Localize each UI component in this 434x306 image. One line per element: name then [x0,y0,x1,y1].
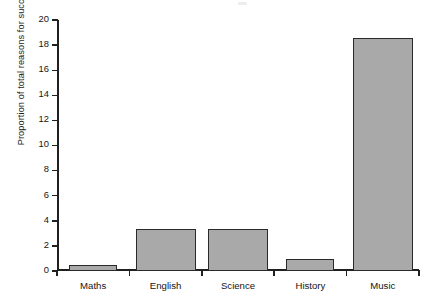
bar-chart-figure: Proportion of total reasons for success … [0,0,434,306]
x-axis-label-science: Science [221,280,255,291]
y-tick-18: 18 [52,44,58,45]
y-tick-label: 4 [44,214,49,226]
y-tick-label: 0 [44,264,49,276]
y-tick-14: 14 [52,95,58,96]
bar-maths [69,265,117,271]
y-tick-label: 6 [44,189,49,201]
y-tick-10: 10 [52,145,58,146]
y-tick-label: 14 [39,88,49,100]
y-tick-label: 2 [44,239,49,251]
bar-music [353,38,413,271]
y-tick-label: 12 [39,113,49,125]
y-tick-8: 8 [52,170,58,171]
x-tick [201,270,203,276]
bar-english [136,229,196,271]
x-axis-label-history: History [295,280,325,291]
plot-area: 02468101214161820 MathsEnglishScienceHis… [57,20,419,271]
y-tick-2: 2 [52,245,58,246]
y-tick-label: 18 [39,38,49,50]
bar-science [208,229,268,271]
y-tick-4: 4 [52,220,58,221]
y-tick-label: 16 [39,63,49,75]
bar-history [286,259,334,271]
x-axis-label-english: English [150,280,181,291]
y-tick-label: 20 [39,13,49,25]
x-tick [273,270,275,276]
y-tick-label: 8 [44,163,49,175]
y-tick-6: 6 [52,195,58,196]
x-tick [129,270,131,276]
y-tick-20: 20 [52,19,58,20]
x-axis-label-maths: Maths [80,280,106,291]
y-tick-label: 10 [39,138,49,150]
x-tick [346,270,348,276]
scan-artifact [238,2,247,5]
x-tick [56,270,58,276]
x-axis-label-music: Music [370,280,395,291]
y-axis-title: Proportion of total reasons for success [16,0,26,170]
y-tick-12: 12 [52,120,58,121]
y-tick-16: 16 [52,70,58,71]
x-tick [418,270,420,276]
